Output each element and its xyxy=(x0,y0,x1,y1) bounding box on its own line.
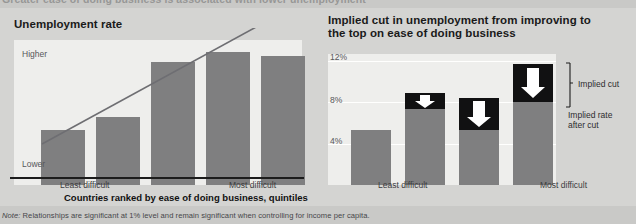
figure-root: Greater ease of doing business is associ… xyxy=(0,0,636,224)
figure-headline: Greater ease of doing business is associ… xyxy=(2,0,366,5)
bar-q5 xyxy=(261,56,305,185)
down-arrow-icon xyxy=(405,93,445,109)
note-prefix: Note: xyxy=(2,211,20,220)
figure-note: Note: Relationships are significant at 1… xyxy=(2,211,370,220)
right-x-label-most: Most difficult xyxy=(540,180,587,190)
right-chart-panel: Implied cut in unemployment from improvi… xyxy=(318,8,636,206)
left-y-label-lower: Lower xyxy=(22,159,45,169)
bar-q3 xyxy=(151,62,195,185)
cut-block-r3 xyxy=(459,98,499,130)
legend-implied-cut: Implied cut xyxy=(578,79,619,89)
bar-q4 xyxy=(206,52,250,185)
cut-block-r4 xyxy=(513,64,553,102)
note-text: Relationships are significant at 1% leve… xyxy=(23,211,370,220)
headline-strip: Greater ease of doing business is associ… xyxy=(0,0,636,8)
bar-r2-rate xyxy=(405,109,445,185)
cut-block-r2 xyxy=(405,93,445,109)
legend-implied-rate-after-cut: Implied rate after cut xyxy=(568,110,630,130)
bar-r4-rate xyxy=(513,102,553,185)
legend-bracket-icon xyxy=(565,62,573,108)
down-arrow-icon xyxy=(459,98,499,130)
left-y-label-higher: Higher xyxy=(22,49,47,59)
left-x-label-most: Most difficult xyxy=(229,180,276,190)
right-x-axis xyxy=(10,177,242,179)
bar-r3-rate xyxy=(459,130,499,185)
right-x-label-least: Least difficult xyxy=(378,180,427,190)
left-x-label-least: Least difficult xyxy=(60,180,109,190)
down-arrow-icon xyxy=(513,64,553,102)
bar-r1-rate xyxy=(351,130,391,185)
bar-q2 xyxy=(96,117,140,185)
left-chart-caption: Countries ranked by ease of doing busine… xyxy=(64,192,308,203)
